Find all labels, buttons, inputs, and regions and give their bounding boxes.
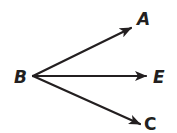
diagram-svg: B A E C xyxy=(0,0,177,133)
rays-diagram: B A E C xyxy=(0,0,177,133)
label-e: E xyxy=(153,67,165,87)
ray-ba xyxy=(33,28,131,76)
ray-bc xyxy=(33,76,140,124)
label-b: B xyxy=(14,67,27,87)
label-a: A xyxy=(135,9,150,29)
label-c: C xyxy=(144,114,156,133)
